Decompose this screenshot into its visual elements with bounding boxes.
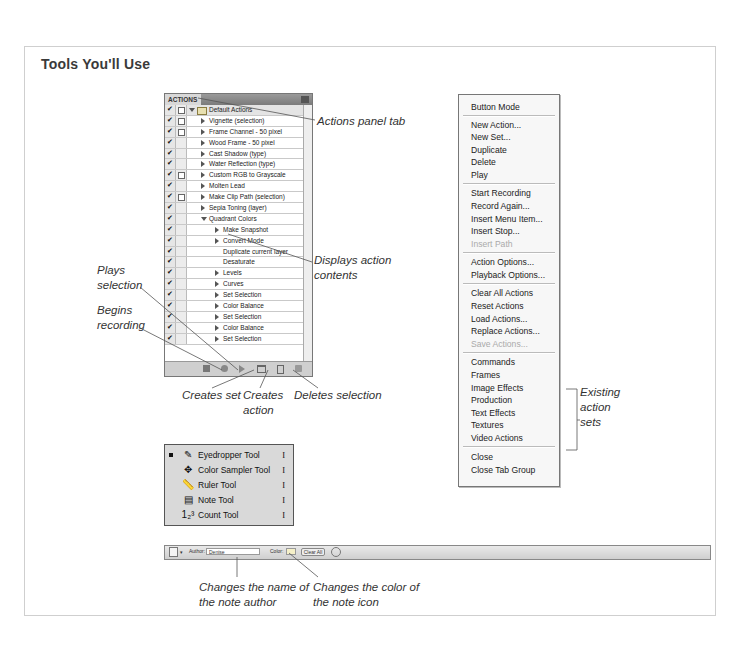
menu-item[interactable]: Load Actions... bbox=[471, 314, 527, 324]
toggle-notes-panel-icon[interactable] bbox=[331, 547, 341, 557]
tool-item[interactable]: 📏Ruler ToolI bbox=[165, 478, 293, 493]
toggle-dialog-box[interactable] bbox=[176, 301, 187, 311]
toggle-item-checkbox[interactable] bbox=[165, 203, 176, 213]
action-row[interactable]: Custom RGB to Grayscale bbox=[165, 170, 304, 181]
toggle-dialog-box[interactable] bbox=[176, 116, 187, 126]
menu-item[interactable]: Record Again... bbox=[471, 201, 530, 211]
menu-item[interactable]: Playback Options... bbox=[471, 270, 545, 280]
toggle-item-checkbox[interactable] bbox=[165, 116, 176, 126]
tool-item[interactable]: ✥Color Sampler ToolI bbox=[165, 463, 293, 478]
action-row[interactable]: Cast Shadow (type) bbox=[165, 149, 304, 160]
menu-item[interactable]: New Set... bbox=[471, 132, 511, 142]
expand-right-icon[interactable] bbox=[215, 314, 219, 320]
expand-right-icon[interactable] bbox=[201, 140, 205, 146]
expand-right-icon[interactable] bbox=[201, 151, 205, 157]
menu-item[interactable]: Delete bbox=[471, 157, 496, 167]
toggle-dialog-box[interactable] bbox=[176, 181, 187, 191]
toggle-dialog-box[interactable] bbox=[176, 159, 187, 169]
toggle-item-checkbox[interactable] bbox=[165, 225, 176, 235]
panel-menu-icon[interactable] bbox=[301, 96, 309, 103]
chevron-down-icon[interactable]: ▾ bbox=[180, 549, 183, 555]
delete-icon[interactable] bbox=[295, 365, 302, 372]
toggle-dialog-box[interactable] bbox=[176, 312, 187, 322]
toggle-item-checkbox[interactable] bbox=[165, 236, 176, 246]
toggle-dialog-box[interactable] bbox=[176, 279, 187, 289]
menu-item[interactable]: Start Recording bbox=[471, 188, 531, 198]
menu-item[interactable]: New Action... bbox=[471, 120, 521, 130]
expand-right-icon[interactable] bbox=[201, 161, 205, 167]
action-row[interactable]: Make Clip Path (selection) bbox=[165, 192, 304, 203]
menu-item[interactable]: Play bbox=[471, 170, 488, 180]
action-row[interactable]: Set Selection bbox=[165, 312, 304, 323]
tool-item[interactable]: ✎Eyedropper ToolI bbox=[165, 448, 293, 463]
action-row[interactable]: Levels bbox=[165, 268, 304, 279]
menu-item[interactable]: Insert Stop... bbox=[471, 226, 520, 236]
expand-right-icon[interactable] bbox=[215, 292, 219, 298]
expand-right-icon[interactable] bbox=[215, 325, 219, 331]
expand-right-icon[interactable] bbox=[215, 303, 219, 309]
menu-item[interactable]: Reset Actions bbox=[471, 301, 524, 311]
action-row[interactable]: Desaturate bbox=[165, 257, 304, 268]
expand-right-icon[interactable] bbox=[215, 227, 219, 233]
toggle-dialog-box[interactable] bbox=[176, 192, 187, 202]
menu-item[interactable]: Action Options... bbox=[471, 257, 534, 267]
toggle-item-checkbox[interactable] bbox=[165, 290, 176, 300]
toggle-dialog-box[interactable] bbox=[176, 127, 187, 137]
action-row[interactable]: Set Selection bbox=[165, 334, 304, 345]
toggle-item-checkbox[interactable] bbox=[165, 127, 176, 137]
toggle-dialog-box[interactable] bbox=[176, 268, 187, 278]
action-row[interactable]: Convert Mode bbox=[165, 236, 304, 247]
expand-right-icon[interactable] bbox=[201, 183, 205, 189]
author-field[interactable]: Denise bbox=[206, 548, 260, 555]
expand-right-icon[interactable] bbox=[201, 194, 205, 200]
menu-item[interactable]: Commands bbox=[471, 357, 515, 367]
toggle-dialog-box[interactable] bbox=[176, 236, 187, 246]
action-row[interactable]: Curves bbox=[165, 279, 304, 290]
action-row[interactable]: Wood Frame - 50 pixel bbox=[165, 138, 304, 149]
toggle-item-checkbox[interactable] bbox=[165, 323, 176, 333]
new-action-icon[interactable] bbox=[277, 365, 284, 374]
note-color-swatch[interactable] bbox=[286, 548, 296, 555]
expand-right-icon[interactable] bbox=[201, 172, 205, 178]
menu-item[interactable]: Close Tab Group bbox=[471, 465, 535, 475]
expand-down-icon[interactable] bbox=[189, 108, 195, 112]
scrollbar[interactable] bbox=[303, 105, 312, 362]
toggle-dialog-box[interactable] bbox=[176, 170, 187, 180]
toggle-dialog-box[interactable] bbox=[176, 138, 187, 148]
toggle-item-checkbox[interactable] bbox=[165, 138, 176, 148]
toggle-dialog-box[interactable] bbox=[176, 247, 187, 257]
action-row[interactable]: Set Selection bbox=[165, 290, 304, 301]
toggle-item-checkbox[interactable] bbox=[165, 181, 176, 191]
toggle-item-checkbox[interactable] bbox=[165, 192, 176, 202]
menu-item[interactable]: Clear All Actions bbox=[471, 288, 533, 298]
toggle-dialog-box[interactable] bbox=[176, 149, 187, 159]
action-row[interactable]: Duplicate current layer bbox=[165, 247, 304, 258]
expand-right-icon[interactable] bbox=[201, 129, 205, 135]
action-row[interactable]: Molten Lead bbox=[165, 181, 304, 192]
action-row[interactable]: Sepia Toning (layer) bbox=[165, 203, 304, 214]
menu-item[interactable]: Close bbox=[471, 452, 493, 462]
play-icon[interactable] bbox=[239, 365, 245, 373]
menu-item[interactable]: Frames bbox=[471, 370, 500, 380]
toggle-item-checkbox[interactable] bbox=[165, 105, 176, 115]
toggle-dialog-box[interactable] bbox=[176, 257, 187, 267]
menu-item[interactable]: Video Actions bbox=[471, 433, 523, 443]
action-row[interactable]: Color Balance bbox=[165, 323, 304, 334]
toggle-item-checkbox[interactable] bbox=[165, 247, 176, 257]
menu-item[interactable]: Insert Menu Item... bbox=[471, 214, 543, 224]
toggle-item-checkbox[interactable] bbox=[165, 159, 176, 169]
toggle-dialog-box[interactable] bbox=[176, 334, 187, 344]
menu-item[interactable]: Button Mode bbox=[471, 102, 520, 112]
toggle-dialog-box[interactable] bbox=[176, 225, 187, 235]
menu-item[interactable]: Production bbox=[471, 395, 512, 405]
expand-right-icon[interactable] bbox=[215, 336, 219, 342]
toggle-dialog-box[interactable] bbox=[176, 105, 187, 115]
tool-item[interactable]: ▤Note ToolI bbox=[165, 493, 293, 508]
record-icon[interactable] bbox=[221, 365, 228, 372]
note-tool-preset-icon[interactable] bbox=[169, 547, 178, 557]
menu-item[interactable]: Replace Actions... bbox=[471, 326, 540, 336]
toggle-item-checkbox[interactable] bbox=[165, 312, 176, 322]
expand-right-icon[interactable] bbox=[215, 270, 219, 276]
expand-down-icon[interactable] bbox=[201, 217, 207, 221]
menu-item[interactable]: Duplicate bbox=[471, 145, 507, 155]
